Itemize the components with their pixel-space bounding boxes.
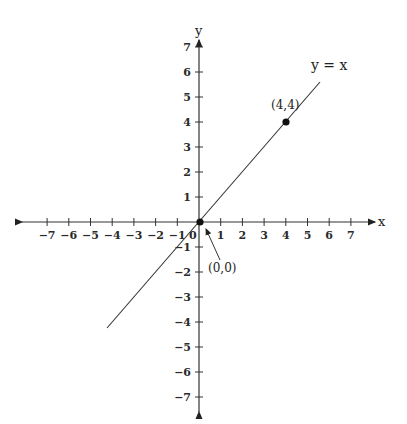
line-y-equals-x [107,82,320,328]
y-tick-label: −2 [174,266,191,279]
x-tick-label: 4 [282,229,290,242]
x-tick-label: 1 [217,229,225,242]
line-label: y = x [310,57,348,73]
y-tick-label: 7 [183,41,191,54]
x-tick-label: −7 [39,229,56,242]
x-tick-label: −3 [125,229,142,242]
point-4-4 [282,118,289,125]
point-origin [196,218,203,225]
x-tick-label: −2 [147,229,164,242]
y-tick-label: 4 [183,116,191,129]
x-axis-label: x [378,214,386,229]
y-axis-label: y [194,23,203,38]
y-tick-label: −6 [174,366,191,379]
y-tick-label: 5 [183,91,191,104]
x-tick-label: −4 [104,229,121,242]
origin-tick-label: 0 [189,229,197,242]
x-tick-label: 6 [325,229,333,242]
y-tick-label: 2 [183,166,191,179]
x-tick-label: −5 [82,229,99,242]
origin-label: (0,0) [208,261,236,275]
y-tick-label: 1 [183,191,191,204]
y-tick-label: −3 [174,291,191,304]
x-tick-label: 3 [260,229,268,242]
x-tick-label: 7 [347,229,355,242]
y-tick-label: −5 [174,341,191,354]
y-tick-label: 3 [183,141,191,154]
x-tick-label: 5 [304,229,312,242]
point-4-4-label: (4,4) [271,98,299,112]
y-tick-label: −4 [174,316,191,329]
y-tick-label: −7 [174,391,191,404]
x-tick-label: 2 [239,229,247,242]
coordinate-plane: x y −7−6−5−4−3−2−11234567 −7−6−5−4−3−2−1… [0,0,407,424]
x-tick-label: −6 [60,229,77,242]
y-tick-label: 6 [183,66,191,79]
